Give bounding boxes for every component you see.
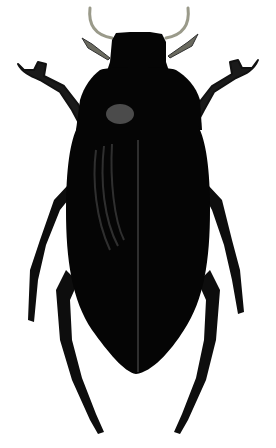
pronotum bbox=[76, 67, 202, 130]
pronotum-highlight bbox=[106, 104, 134, 124]
beetle-illustration bbox=[0, 0, 276, 448]
